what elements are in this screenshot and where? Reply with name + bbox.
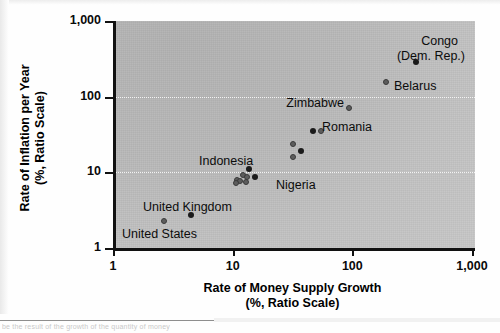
footnote-rule [0,320,214,321]
figure-canvas: Congo(Dem. Rep.)BelarusZimbabweRomaniaNi… [0,0,500,333]
y-tick-100 [105,97,113,99]
point-label-united-kingdom: United Kingdom [143,200,232,214]
x-tick-10 [233,248,235,256]
y-tick-1 [105,248,113,250]
point-label-congo: Congo [421,34,458,48]
y-tick-label-10: 10 [40,164,101,178]
data-point-zimbabwe [346,105,352,111]
point-label-dem-rep: (Dem. Rep.) [397,49,465,63]
x-tick-label-1000: 1,000 [432,259,500,273]
data-point-romania [310,128,316,134]
data-point-nigeria-upper [290,141,296,147]
y-tick-10 [105,172,113,174]
gridline-y-10 [116,172,475,173]
scan-edge-left [0,0,9,314]
plot-area: Congo(Dem. Rep.)BelarusZimbabweRomaniaNi… [113,21,475,251]
y-axis-title: Rate of Inflation per Year (%, Ratio Sca… [18,28,48,248]
y-tick-1000 [105,21,113,23]
data-point-nigeria-lower [290,154,296,160]
x-tick-100 [352,248,354,256]
x-axis-title-line1: Rate of Money Supply Growth [113,281,472,296]
scan-edge-top [0,0,500,5]
data-point-united-states [161,218,167,224]
point-label-nigeria: Nigeria [276,178,316,192]
y-tick-label-1: 1 [40,240,101,254]
x-axis-title: Rate of Money Supply Growth (%, Ratio Sc… [113,281,472,311]
clipped-footnote-text: be the result of the growth of the quant… [2,322,217,331]
data-point-indonesia-g [243,179,249,185]
x-tick-label-100: 100 [312,259,392,273]
x-tick-label-1: 1 [73,259,153,273]
point-label-united-states: United States [122,227,197,241]
data-point-indonesia-d [252,174,258,180]
y-tick-label-1000: 1,000 [40,13,101,27]
point-label-indonesia: Indonesia [199,154,253,168]
scan-edge-bottom [214,318,500,322]
data-point-indonesia-h [233,180,239,186]
point-label-romania: Romania [322,120,372,134]
x-tick-label-10: 10 [193,259,273,273]
data-point-belarus [383,79,389,85]
data-point-nigeria-mid [298,148,304,154]
x-tick-1 [113,248,115,256]
x-tick-1000 [472,248,474,256]
x-axis-title-line2: (%, Ratio Scale) [113,296,472,311]
point-label-zimbabwe: Zimbabwe [286,96,344,110]
point-label-belarus: Belarus [394,79,436,93]
y-tick-label-100: 100 [40,89,101,103]
y-axis-title-line2: (%, Ratio Scale) [33,28,48,248]
y-axis-title-line1: Rate of Inflation per Year [18,28,33,248]
